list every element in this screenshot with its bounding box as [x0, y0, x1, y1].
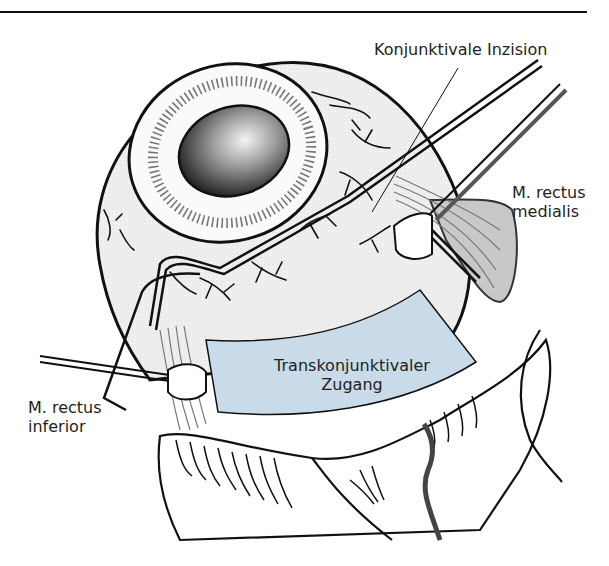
label-m-rectus-medialis: M. rectus medialis — [512, 183, 586, 221]
label-konjunktivale-inzision: Konjunktivale Inzision — [374, 40, 547, 59]
label-transkonjunktivaler-zugang: Transkonjunktivaler Zugang — [252, 356, 452, 394]
label-medial-line-2: medialis — [512, 202, 586, 221]
label-inferior-line-1: M. rectus — [28, 398, 102, 417]
diagram-canvas: Konjunktivale Inzision M. rectus mediali… — [0, 0, 609, 566]
label-approach-line-2: Zugang — [252, 375, 452, 394]
label-approach-line-1: Transkonjunktivaler — [252, 356, 452, 375]
label-medial-line-1: M. rectus — [512, 183, 586, 202]
eye-surgery-illustration — [0, 0, 609, 566]
label-m-rectus-inferior: M. rectus inferior — [28, 398, 102, 436]
label-inferior-line-2: inferior — [28, 417, 102, 436]
